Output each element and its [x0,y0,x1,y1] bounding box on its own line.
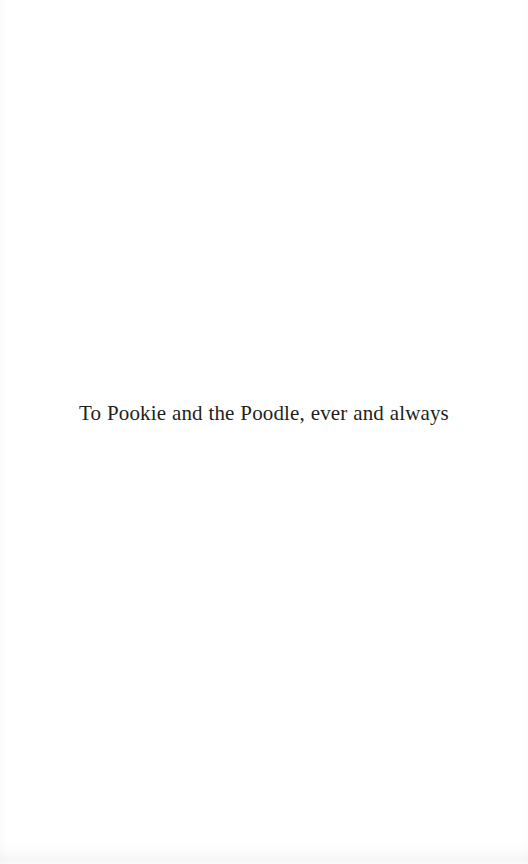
scan-edge-shading-left [0,0,10,864]
dedication-text: To Pookie and the Poodle, ever and alway… [79,398,449,428]
dedication-block: To Pookie and the Poodle, ever and alway… [0,398,528,428]
scan-edge-shading-right [520,0,528,864]
scan-edge-shading-bottom [0,838,528,864]
book-page: To Pookie and the Poodle, ever and alway… [0,0,528,864]
